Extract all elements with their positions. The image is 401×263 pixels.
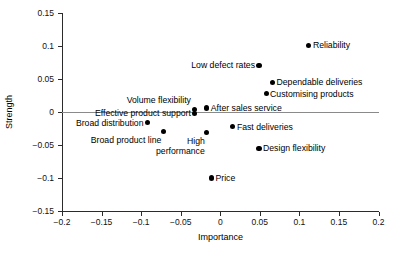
- x-tick: [102, 212, 103, 216]
- x-tick: [141, 212, 142, 216]
- data-point-marker: [306, 43, 311, 48]
- data-point-label: Design flexibility: [263, 143, 325, 153]
- data-point-marker: [270, 80, 275, 85]
- data-point-marker: [204, 105, 209, 110]
- y-tick-label: 0.15: [0, 9, 54, 18]
- data-point-label: Customising products: [270, 89, 354, 99]
- x-tick: [181, 212, 182, 216]
- x-tick-label: 0.2: [349, 218, 401, 227]
- data-point-label: Broad distribution: [76, 118, 144, 128]
- x-tick: [220, 212, 221, 216]
- data-point-label: Broad product line: [91, 135, 162, 145]
- data-point-marker: [230, 124, 235, 129]
- y-tick: [58, 46, 62, 47]
- data-point-label: High performance: [156, 136, 205, 156]
- data-point-label: After sales service: [211, 103, 282, 113]
- x-axis-title: Importance: [62, 232, 379, 242]
- data-point-marker: [204, 130, 209, 135]
- data-point-marker: [256, 63, 261, 68]
- x-tick: [379, 212, 380, 216]
- data-point-label: Reliability: [313, 40, 350, 50]
- y-tick: [58, 112, 62, 113]
- y-tick-label: 0.1: [0, 42, 54, 51]
- scatter-chart: 0.150.10.050−0.05−0.1−0.15 −0.2−0.15−0.1…: [0, 0, 401, 263]
- data-point-label: Fast deliveries: [237, 122, 293, 132]
- data-point-label: Price: [216, 173, 236, 183]
- y-tick-label: −0.1: [0, 174, 54, 183]
- data-point-marker: [192, 111, 197, 116]
- y-tick-label: −0.15: [0, 207, 54, 216]
- y-tick: [58, 79, 62, 80]
- y-axis-title: Strength: [4, 82, 14, 142]
- data-point-label: Dependable deliveries: [277, 77, 363, 87]
- x-tick: [339, 212, 340, 216]
- x-tick: [260, 212, 261, 216]
- y-tick: [58, 145, 62, 146]
- y-tick: [58, 13, 62, 14]
- data-point-marker: [256, 146, 261, 151]
- x-tick: [62, 212, 63, 216]
- data-point-marker: [145, 120, 150, 125]
- data-point-marker: [264, 91, 269, 96]
- y-tick: [58, 178, 62, 179]
- data-point-marker: [161, 129, 166, 134]
- x-tick: [299, 212, 300, 216]
- data-point-label: Volume flexibility: [127, 95, 191, 105]
- data-point-marker: [209, 175, 214, 180]
- data-point-label: Low defect rates: [191, 60, 255, 70]
